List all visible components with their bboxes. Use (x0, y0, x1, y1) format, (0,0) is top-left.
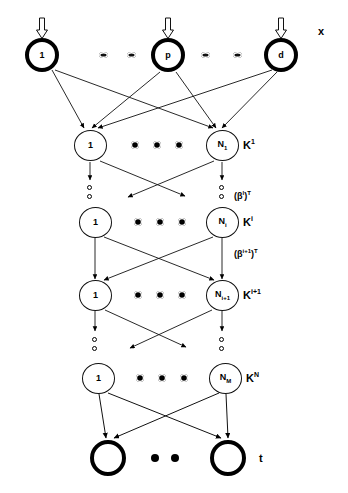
ki1-ellipsis-dot (134, 291, 142, 299)
node-label: N1 (218, 140, 228, 151)
weight-label-beta-l: (βl)T (234, 190, 251, 201)
output-vector-label: t (259, 452, 263, 464)
node-label: NM (220, 373, 232, 384)
node-ki1-1[interactable]: 1 (79, 280, 112, 311)
node-output-1[interactable] (90, 440, 126, 476)
node-kn-NM[interactable]: NM (209, 363, 242, 394)
vertical-ellipsis-dot (92, 346, 97, 351)
vertical-ellipsis-dot (219, 185, 224, 190)
input-ellipsis-dot (99, 52, 108, 58)
node-label: 1 (96, 374, 101, 383)
node-label: 1 (93, 218, 98, 227)
node-k1-N1[interactable]: N1 (206, 130, 239, 161)
network-diagram: 1 p d x 1 N1 K1 (βl)T 1 Ni Ki (βi+1)T (0, 0, 348, 493)
edges-layer (0, 0, 348, 493)
node-label: d (278, 51, 284, 60)
ki-ellipsis-dot (134, 218, 142, 226)
ki1-ellipsis-dot (178, 291, 186, 299)
kn-ellipsis-dot (136, 374, 144, 382)
node-label: 1 (93, 291, 98, 300)
vertical-ellipsis-dot (87, 194, 92, 199)
ki-ellipsis-dot (156, 218, 164, 226)
vertical-ellipsis-dot (219, 346, 224, 351)
node-label: Ni+1 (215, 290, 230, 301)
k1-ellipsis-dot (175, 141, 183, 149)
layer-label-k1: K1 (243, 138, 255, 151)
input-to-k1-edges (52, 70, 277, 128)
input-ellipsis-dot (201, 52, 210, 58)
kn-ellipsis-dot (158, 374, 166, 382)
ki-ellipsis-dot (178, 218, 186, 226)
input-vector-label: x (318, 25, 324, 37)
kn-ellipsis-dot (180, 374, 188, 382)
node-ki1-Ni1[interactable]: Ni+1 (206, 280, 239, 311)
input-ellipsis-dot (127, 52, 136, 58)
vertical-ellipsis-dot (92, 337, 97, 342)
ki-to-ki1-edges (95, 237, 222, 280)
node-input-p[interactable]: p (151, 38, 185, 72)
ki1-ellipsis-dot (156, 291, 164, 299)
node-label: 1 (88, 141, 93, 150)
input-ellipsis-dot (233, 52, 242, 58)
node-output-2[interactable] (210, 440, 246, 476)
node-k1-1[interactable]: 1 (74, 130, 107, 161)
vertical-ellipsis-dot (219, 194, 224, 199)
vertical-ellipsis-dot (219, 337, 224, 342)
node-ki-Ni[interactable]: Ni (206, 207, 239, 238)
k1-ellipsis-dot (131, 141, 139, 149)
layer-label-ki: Ki (243, 215, 253, 228)
input-stimulus-arrows (37, 18, 287, 39)
node-label: Ni (218, 217, 226, 228)
kn-to-output-edges (99, 393, 228, 438)
node-ki-1[interactable]: 1 (79, 207, 112, 238)
node-label: p (165, 51, 171, 60)
ki1-to-kn-edges (95, 310, 222, 348)
layer-label-kn: KN (246, 371, 259, 384)
layer-label-ki1: Ki+1 (243, 288, 261, 301)
output-ellipsis-dot (151, 454, 159, 462)
node-input-d[interactable]: d (264, 38, 298, 72)
node-input-1[interactable]: 1 (25, 38, 59, 72)
k1-ellipsis-dot (153, 141, 161, 149)
weight-label-beta-i1: (βi+1)T (234, 248, 258, 259)
output-ellipsis-dot (171, 454, 179, 462)
node-kn-1[interactable]: 1 (82, 363, 115, 394)
vertical-ellipsis-dot (87, 185, 92, 190)
k1-to-ki-edges (90, 161, 222, 197)
node-label: 1 (39, 51, 44, 60)
